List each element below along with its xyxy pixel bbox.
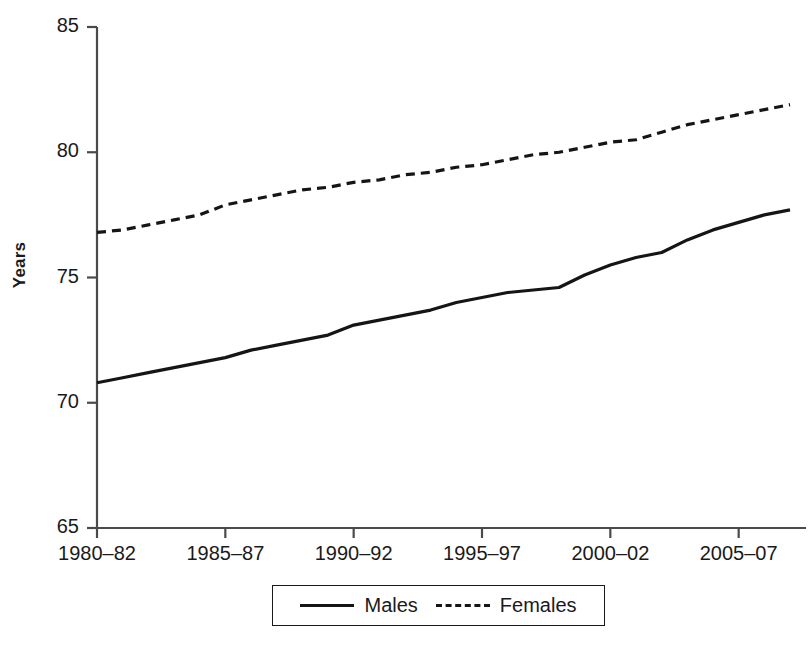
legend-dashed-line-icon (436, 604, 490, 607)
x-axis-tick-label: 2005–07 (700, 542, 778, 565)
legend-item-label: Males (364, 594, 417, 617)
y-axis-tick-label: 70 (27, 390, 79, 413)
y-axis-tick-label: 75 (27, 265, 79, 288)
series-line-females (97, 105, 790, 233)
legend-item-label: Females (500, 594, 577, 617)
x-axis-tick-label: 1980–82 (58, 542, 136, 565)
legend-solid-line-icon (300, 604, 354, 607)
x-axis-tick-label: 1985–87 (186, 542, 264, 565)
x-axis-tick-label: 1995–97 (443, 542, 521, 565)
x-axis-tick-label: 1990–92 (315, 542, 393, 565)
y-axis-tick-label: 85 (27, 14, 79, 37)
chart-legend: MalesFemales (272, 585, 605, 626)
x-axis-tick-label: 2000–02 (571, 542, 649, 565)
legend-item-males[interactable]: Males (300, 594, 417, 617)
y-axis-tick-label: 80 (27, 139, 79, 162)
y-axis-tick-label: 65 (27, 515, 79, 538)
life-expectancy-line-chart: Years 6570758085 1980–821985–871990–9219… (0, 0, 811, 658)
series-line-males (97, 210, 790, 383)
legend-item-females[interactable]: Females (436, 594, 577, 617)
